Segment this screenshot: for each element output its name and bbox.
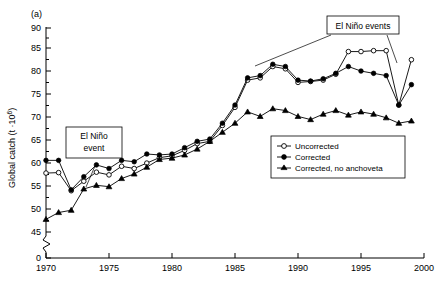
y-axis-title-tail: ) (7, 108, 17, 111)
y-axis-title-main: Global catch (t ·10 (7, 114, 17, 188)
filled-circle-marker (334, 71, 339, 76)
x-tick-1990: 1990 (288, 263, 308, 273)
y-axis-tick-labels: 0 45 50 55 60 65 70 75 80 85 90 (31, 23, 41, 263)
open-circle-marker (346, 49, 351, 54)
svg-text:Global catch (t ·106): Global catch (t ·106) (6, 108, 17, 188)
legend-label-corrected: Corrected (295, 153, 330, 162)
filled-triangle-marker (358, 109, 364, 114)
filled-triangle-marker (182, 152, 188, 157)
annotation-el-nino-events-right: El Niño events (255, 16, 399, 66)
y-tick-80: 80 (31, 66, 41, 76)
panel-label: (a) (31, 9, 42, 19)
annotation-right-line1: El Niño events (336, 21, 391, 31)
open-circle-marker (384, 48, 389, 53)
x-tick-2000: 2000 (414, 263, 434, 273)
x-axis-ticks (46, 253, 424, 258)
filled-circle-icon (282, 155, 287, 160)
global-catch-line-chart: (a) Global catch (t ·106) (0, 0, 439, 284)
open-circle-marker (132, 166, 137, 171)
x-tick-1970: 1970 (36, 263, 56, 273)
filled-triangle-marker (295, 114, 301, 119)
filled-circle-marker (220, 121, 225, 126)
filled-circle-marker (233, 103, 238, 108)
y-axis-title: Global catch (t ·106) (6, 108, 17, 188)
open-circle-marker (409, 57, 414, 62)
filled-triangle-marker (144, 164, 150, 169)
y-axis-ticks (46, 28, 51, 258)
x-tick-1975: 1975 (99, 263, 119, 273)
filled-circle-marker (44, 158, 49, 163)
x-axis-tick-labels: 1970 1975 1980 1985 1990 1995 2000 (36, 263, 434, 273)
filled-circle-marker (119, 158, 124, 163)
filled-circle-marker (195, 139, 200, 144)
y-tick-55: 55 (31, 181, 41, 191)
filled-circle-marker (56, 158, 61, 163)
x-tick-1995: 1995 (351, 263, 371, 273)
filled-triangle-marker (220, 129, 226, 134)
filled-circle-marker (321, 76, 326, 81)
filled-circle-marker (384, 73, 389, 78)
filled-circle-marker (245, 76, 250, 81)
annotation-left-line1: El Niño (80, 131, 108, 141)
legend[interactable]: Uncorrected Corrected Corrected, no anch… (271, 136, 405, 178)
annotation-left-line2: event (84, 143, 105, 153)
filled-triangle-marker (194, 146, 200, 151)
filled-circle-marker (182, 145, 187, 150)
y-tick-50: 50 (31, 204, 41, 214)
filled-circle-marker (371, 71, 376, 76)
y-tick-60: 60 (31, 158, 41, 168)
filled-circle-marker (271, 62, 276, 67)
y-tick-0: 0 (36, 253, 41, 263)
y-tick-45: 45 (31, 227, 41, 237)
open-circle-marker (82, 179, 87, 184)
y-tick-90: 90 (31, 23, 41, 33)
filled-circle-marker (69, 188, 74, 193)
filled-triangle-marker (245, 109, 251, 114)
filled-triangle-marker (94, 182, 100, 187)
filled-circle-marker (409, 82, 414, 87)
filled-triangle-marker (131, 171, 137, 176)
filled-triangle-marker (270, 106, 276, 111)
filled-circle-marker (258, 73, 263, 78)
filled-triangle-marker (43, 216, 49, 221)
filled-circle-marker (296, 78, 301, 83)
filled-circle-marker (346, 64, 351, 69)
filled-circle-marker (283, 64, 288, 69)
open-circle-marker (359, 49, 364, 54)
chart-figure: (a) Global catch (t ·106) (0, 0, 439, 284)
y-tick-75: 75 (31, 89, 41, 99)
filled-circle-marker (359, 69, 364, 74)
open-circle-marker (107, 173, 112, 178)
filled-triangle-marker (333, 108, 339, 113)
legend-label-corrected-no-anchoveta: Corrected, no anchoveta (295, 164, 383, 173)
filled-triangle-marker (409, 118, 415, 123)
open-circle-icon (282, 144, 287, 149)
x-tick-1980: 1980 (162, 263, 182, 273)
open-circle-marker (56, 170, 61, 175)
filled-circle-marker (82, 174, 87, 179)
y-tick-65: 65 (31, 135, 41, 145)
open-circle-marker (119, 164, 124, 169)
filled-circle-marker (145, 152, 150, 157)
legend-label-uncorrected: Uncorrected (295, 142, 339, 151)
filled-circle-marker (397, 103, 402, 108)
open-circle-marker (371, 48, 376, 53)
x-tick-1985: 1985 (225, 263, 245, 273)
open-circle-marker (44, 171, 49, 176)
annotation-el-nino-event-left: El Niño event (66, 127, 122, 187)
filled-circle-marker (132, 159, 137, 164)
filled-circle-marker (308, 79, 313, 84)
filled-circle-marker (107, 166, 112, 171)
y-tick-85: 85 (31, 43, 41, 53)
filled-triangle-marker (68, 207, 74, 212)
open-circle-marker (94, 170, 99, 175)
y-tick-70: 70 (31, 112, 41, 122)
